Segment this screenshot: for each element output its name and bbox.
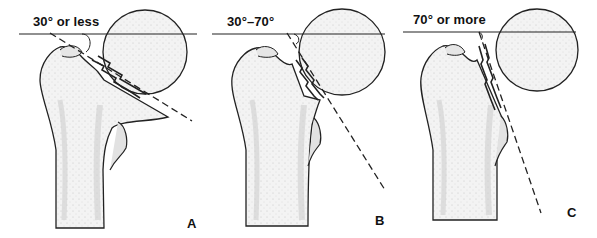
panel-title-b: 30°–70° [227,14,274,29]
angle-arc [294,34,299,44]
panel-title-c: 70° or more [413,12,486,27]
lesser-trochanter [110,122,127,170]
angle-arc [82,34,90,52]
panel-letter-a: A [187,216,196,231]
femur-illustration-c [397,0,597,238]
panel-a: 30° or less A [0,0,200,238]
femur-illustration-a [0,0,200,238]
panel-letter-b: B [375,213,384,228]
panel-letter-c: C [567,205,576,220]
femoral-head [299,9,385,95]
panel-b: 30°–70° B [200,0,400,238]
panel-title-a: 30° or less [33,14,99,29]
panel-c: 70° or more C [397,0,597,238]
femoral-head [496,9,578,91]
femur-illustration-b [200,0,400,238]
femoral-head [103,10,187,94]
